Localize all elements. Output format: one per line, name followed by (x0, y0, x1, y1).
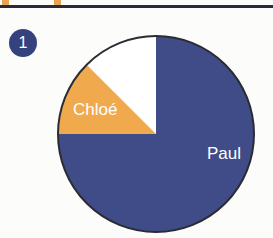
divider-tick-icon (2, 0, 9, 5)
top-divider-rule (0, 5, 273, 8)
question-number-badge: 1 (9, 29, 37, 57)
divider-tick-icon (54, 0, 61, 5)
page-root: 1 Paul Chloé (0, 0, 273, 238)
pie-label-chloe: Chloé (73, 100, 117, 119)
pie-chart: Paul Chloé (56, 34, 256, 234)
pie-label-paul: Paul (207, 144, 241, 163)
pie-chart-svg: Paul Chloé (56, 34, 256, 234)
